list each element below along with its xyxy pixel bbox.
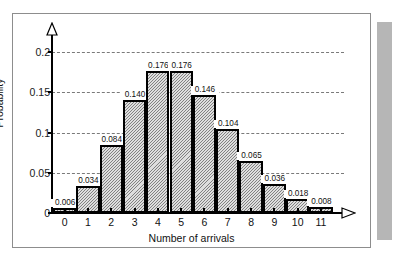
x-tick-label-6: 6 bbox=[192, 216, 216, 228]
x-axis-title: Number of arrivals bbox=[12, 232, 371, 244]
x-tick-mark-7 bbox=[227, 208, 229, 213]
bar-series: 0.0060.0340.0840.1400.1760.1760.1460.104… bbox=[53, 30, 333, 213]
bar-value-label-2: 0.084 bbox=[98, 136, 126, 144]
bar-6 bbox=[193, 95, 216, 213]
x-tick-label-7: 7 bbox=[216, 216, 240, 228]
bar-value-label-11: 0.008 bbox=[307, 198, 335, 206]
x-tick-label-4: 4 bbox=[146, 216, 170, 228]
x-tick-mark-2 bbox=[110, 208, 112, 213]
x-tick-mark-3 bbox=[134, 208, 136, 213]
bar-7 bbox=[216, 129, 239, 213]
x-tick-label-10: 10 bbox=[286, 216, 310, 228]
x-tick-label-11: 11 bbox=[309, 216, 333, 228]
bar-2 bbox=[100, 145, 123, 213]
bar-4 bbox=[146, 71, 169, 213]
x-tick-label-1: 1 bbox=[76, 216, 100, 228]
bar-3 bbox=[123, 100, 146, 213]
bar-value-label-7: 0.104 bbox=[214, 120, 242, 128]
x-tick-label-0: 0 bbox=[53, 216, 77, 228]
x-axis-arrowhead-icon bbox=[340, 206, 356, 220]
figure-root: 00.050.10.150.2 Probability Number of ar… bbox=[0, 0, 399, 260]
y-tick-label-0.1: 0.1 bbox=[4, 127, 50, 139]
bar-5 bbox=[170, 71, 193, 213]
bar-value-label-1: 0.034 bbox=[74, 177, 102, 185]
x-tick-mark-6 bbox=[203, 208, 205, 213]
x-tick-mark-11 bbox=[320, 208, 322, 213]
x-tick-label-8: 8 bbox=[239, 216, 263, 228]
x-tick-mark-1 bbox=[87, 208, 89, 213]
x-tick-label-5: 5 bbox=[169, 216, 193, 228]
y-tick-label-0.15: 0.15 bbox=[4, 86, 50, 98]
x-tick-mark-8 bbox=[250, 208, 252, 213]
y-tick-label-0.05: 0.05 bbox=[4, 167, 50, 179]
y-axis-ticks: 00.050.10.150.2 bbox=[0, 0, 50, 260]
x-tick-mark-4 bbox=[157, 208, 159, 213]
bar-value-label-10: 0.018 bbox=[284, 190, 312, 198]
x-tick-mark-10 bbox=[297, 208, 299, 213]
bar-value-label-0: 0.006 bbox=[51, 199, 79, 207]
bar-value-label-5: 0.176 bbox=[168, 62, 196, 70]
bar-value-label-8: 0.065 bbox=[237, 152, 265, 160]
x-tick-label-3: 3 bbox=[123, 216, 147, 228]
x-tick-label-9: 9 bbox=[262, 216, 286, 228]
bar-value-label-3: 0.140 bbox=[121, 91, 149, 99]
y-tick-label-0: 0 bbox=[4, 207, 50, 219]
x-tick-mark-5 bbox=[180, 208, 182, 213]
x-tick-mark-0 bbox=[64, 208, 66, 213]
y-axis-title: Probability bbox=[0, 78, 5, 127]
bar-8 bbox=[239, 161, 262, 213]
y-tick-label-0.2: 0.2 bbox=[4, 46, 50, 58]
bar-value-label-6: 0.146 bbox=[191, 86, 219, 94]
page-drop-shadow bbox=[377, 22, 392, 240]
x-tick-mark-9 bbox=[273, 208, 275, 213]
x-tick-label-2: 2 bbox=[99, 216, 123, 228]
bar-value-label-9: 0.036 bbox=[261, 175, 289, 183]
